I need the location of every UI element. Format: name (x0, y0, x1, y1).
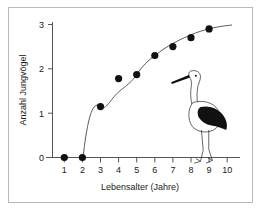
stork-eye (195, 75, 197, 77)
x-tick-label-9: 9 (207, 165, 212, 175)
data-point (151, 52, 158, 59)
data-point (61, 154, 68, 161)
data-point (206, 25, 213, 32)
x-tick-label-3: 3 (98, 165, 103, 175)
data-point (187, 34, 194, 41)
x-axis-ticks (64, 158, 227, 163)
white-stork-illustration (171, 71, 227, 164)
x-tick-label-2: 2 (80, 165, 85, 175)
y-tick-label-2: 2 (39, 64, 44, 74)
x-axis-tick-labels: 1 2 3 4 5 6 7 8 9 10 (62, 165, 232, 175)
y-axis-title: Anzahl Jungvögel (18, 54, 28, 125)
stork-foot-left (194, 159, 200, 164)
x-tick-label-4: 4 (116, 165, 121, 175)
x-tick-label-6: 6 (152, 165, 157, 175)
data-point (79, 154, 86, 161)
data-points (61, 25, 213, 161)
x-tick-label-5: 5 (134, 165, 139, 175)
y-axis-ticks (48, 25, 53, 158)
y-tick-label-3: 3 (39, 20, 44, 30)
data-point (169, 43, 176, 50)
stork-leg-left (200, 130, 203, 161)
x-axis-title: Lebensalter (Jahre) (101, 182, 179, 192)
y-tick-label-1: 1 (39, 109, 44, 119)
figure-container: 0 1 2 3 1 2 3 4 5 6 7 8 9 (0, 0, 262, 211)
x-tick-label-1: 1 (62, 165, 67, 175)
stork-head-neck (189, 71, 201, 106)
x-tick-label-7: 7 (170, 165, 175, 175)
fitted-curve (83, 25, 232, 158)
data-point (97, 103, 104, 110)
y-axis-tick-labels: 0 1 2 3 (39, 20, 44, 163)
data-point (133, 71, 140, 78)
data-point (115, 75, 122, 82)
stork-breeding-scatter-chart: 0 1 2 3 1 2 3 4 5 6 7 8 9 (0, 0, 262, 211)
y-tick-label-0: 0 (39, 153, 44, 163)
stork-leg-right (209, 130, 213, 160)
x-tick-label-8: 8 (188, 165, 193, 175)
x-tick-label-10: 10 (222, 165, 232, 175)
